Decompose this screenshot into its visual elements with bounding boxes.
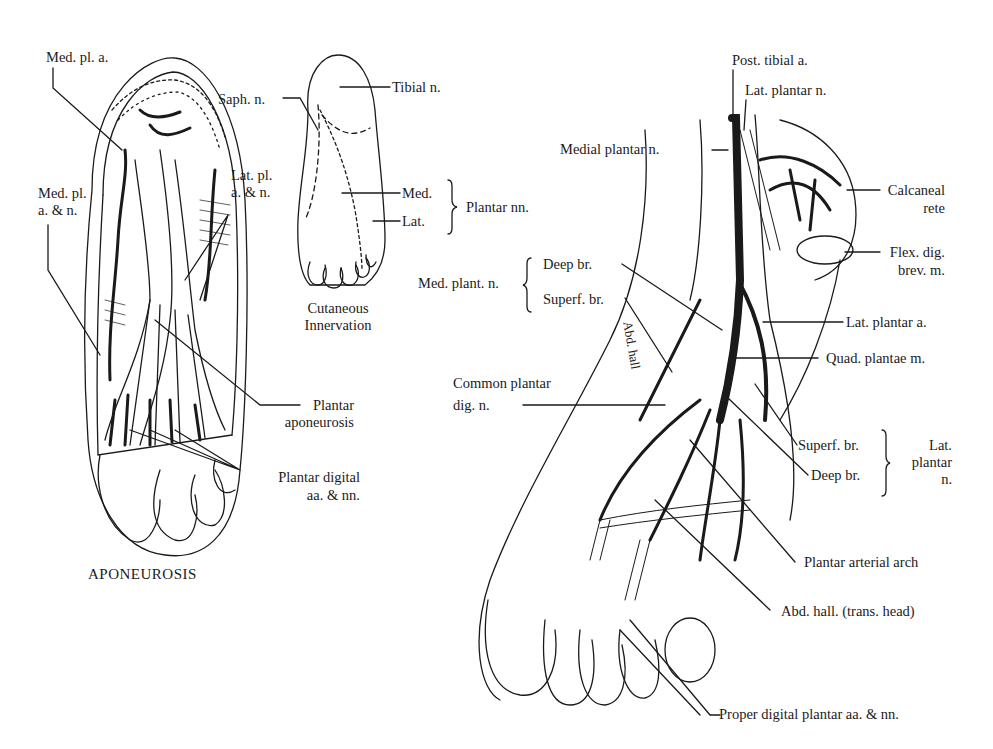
label-plantar-aponeurosis-line2: aponeurosis — [270, 414, 354, 431]
label-med: Med. — [402, 185, 432, 202]
label-lat-plantar-n-group-line1: Lat. — [892, 437, 952, 454]
label-med-pl-a-n-line2: a. & n. — [38, 202, 77, 219]
label-lat-plantar-n-group-line3: n. — [892, 471, 952, 488]
label-plantar-aponeurosis-line1: Plantar — [270, 397, 354, 414]
label-lat-superf-br: Superf. br. — [798, 437, 859, 454]
label-med-deep-br: Deep br. — [543, 256, 592, 273]
label-common-plantar-line2: dig. n. — [453, 397, 490, 414]
panel-title-cutaneous-line2: Innervation — [298, 317, 378, 334]
label-med-plant-n: Med. plant. n. — [418, 275, 499, 292]
aponeurosis-foot-drawing — [85, 58, 247, 556]
label-lat-deep-br: Deep br. — [811, 467, 860, 484]
label-proper-digital-plantar: Proper digital plantar aa. & nn. — [719, 706, 899, 723]
label-lat-plantar-n: Lat. plantar n. — [745, 82, 826, 99]
label-lat-pl-a-n-line2: a. & n. — [231, 184, 270, 201]
label-plantar-nn: Plantar nn. — [466, 199, 529, 216]
label-lat-plantar-a: Lat. plantar a. — [846, 314, 927, 331]
label-medial-plantar-n: Medial plantar n. — [560, 141, 659, 158]
label-plantar-digital-line1: Plantar digital — [250, 469, 360, 486]
label-saph-n: Saph. n. — [218, 91, 265, 108]
label-lat-pl-a-n-line1: Lat. pl. — [231, 167, 272, 184]
label-lat: Lat. — [402, 213, 425, 230]
label-med-superf-br: Superf. br. — [543, 291, 604, 308]
label-med-pl-a: Med. pl. a. — [46, 49, 108, 66]
label-common-plantar-line1: Common plantar — [453, 375, 551, 392]
label-med-pl-a-n-line1: Med. pl. — [38, 185, 87, 202]
label-flex-dig-line1: Flex. dig. — [870, 244, 945, 261]
label-tibial-n: Tibial n. — [392, 79, 441, 96]
label-flex-dig-line2: brev. m. — [870, 262, 945, 279]
label-plantar-arterial-arch: Plantar arterial arch — [804, 554, 918, 571]
label-lat-plantar-n-group-line2: plantar — [892, 454, 952, 471]
label-quad-plantae: Quad. plantae m. — [826, 350, 925, 367]
label-abd-hall-trans-head: Abd. hall. (trans. head) — [781, 603, 915, 620]
label-calcaneal-rete-line2: rete — [870, 200, 945, 217]
panel-title-cutaneous-line1: Cutaneous — [298, 300, 378, 317]
panel-title-aponeurosis: APONEUROSIS — [88, 566, 197, 583]
label-post-tibial-a: Post. tibial a. — [732, 52, 808, 69]
label-plantar-digital-line2: aa. & nn. — [250, 487, 360, 504]
label-calcaneal-rete-line1: Calcaneal — [870, 182, 945, 199]
